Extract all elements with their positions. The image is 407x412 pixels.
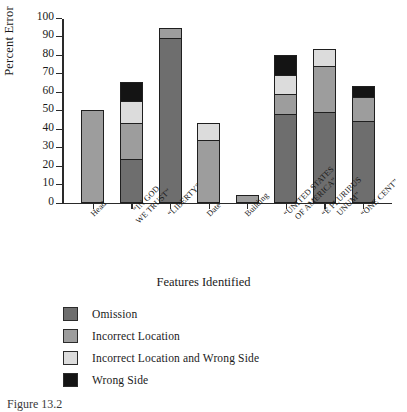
legend-swatch-icon	[63, 373, 78, 387]
legend-item: Incorrect Location	[63, 325, 363, 347]
y-axis-tick-label: 60	[30, 84, 54, 96]
chart-legend: OmissionIncorrect LocationIncorrect Loca…	[63, 303, 363, 391]
y-axis-tick-mark	[56, 55, 62, 56]
y-axis-tick-mark	[56, 92, 62, 93]
stacked-bar	[120, 82, 143, 202]
bar-segment	[120, 159, 143, 202]
y-axis-tick-mark	[56, 147, 62, 148]
y-axis-tick-mark	[56, 184, 62, 185]
bar-segment	[313, 49, 336, 66]
bar-segment	[274, 94, 297, 113]
y-axis-tick-label: 100	[30, 10, 54, 22]
y-axis-tick-mark	[56, 110, 62, 111]
bar-segment	[81, 110, 104, 203]
stacked-bar	[159, 28, 182, 203]
y-axis-tick-label: 20	[30, 158, 54, 170]
legend-label: Incorrect Location	[92, 330, 180, 342]
bar-segment	[274, 55, 297, 74]
bar-segment	[120, 101, 143, 123]
bar-segment	[352, 97, 375, 121]
chart-figure: Percent Error 0102030405060708090100 Hea…	[0, 0, 407, 300]
bar-segment	[274, 114, 297, 203]
y-axis-tick-label: 50	[30, 102, 54, 114]
legend-item: Wrong Side	[63, 369, 363, 391]
bar-segment	[197, 140, 220, 203]
plot-area: 0102030405060708090100	[62, 19, 392, 204]
y-axis-tick-mark	[56, 166, 62, 167]
legend-label: Wrong Side	[92, 374, 148, 386]
y-axis-line	[62, 19, 64, 204]
y-axis-tick-label: 90	[30, 28, 54, 40]
legend-item: Incorrect Location and Wrong Side	[63, 347, 363, 369]
stacked-bar	[274, 55, 297, 202]
bar-segment	[313, 66, 336, 112]
bar-segment	[197, 123, 220, 140]
stacked-bar	[81, 110, 104, 203]
y-axis-tick-mark	[56, 129, 62, 130]
legend-label: Incorrect Location and Wrong Side	[92, 352, 259, 364]
y-axis-tick-mark	[56, 203, 62, 204]
y-axis-tick-mark	[56, 73, 62, 74]
figure-caption: Figure 13.2	[7, 397, 62, 412]
bar-segment	[159, 28, 182, 38]
y-axis-tick-mark	[56, 18, 62, 19]
y-axis-tick-label: 10	[30, 176, 54, 188]
y-axis-tick-label: 70	[30, 65, 54, 77]
bar-segment	[274, 75, 297, 94]
y-axis-tick-label: 80	[30, 47, 54, 59]
legend-swatch-icon	[63, 351, 78, 365]
legend-label: Omission	[92, 308, 137, 320]
y-axis-tick-label: 40	[30, 121, 54, 133]
legend-swatch-icon	[63, 329, 78, 343]
legend-item: Omission	[63, 303, 363, 325]
x-axis-title: Features Identified	[0, 275, 407, 290]
bar-segment	[120, 123, 143, 159]
y-axis-title: Percent Error	[2, 0, 17, 96]
y-axis-tick-mark	[56, 36, 62, 37]
bar-segment	[352, 86, 375, 97]
y-axis-tick-label: 0	[30, 195, 54, 207]
bar-segment	[159, 38, 182, 203]
bar-segment	[120, 82, 143, 101]
y-axis-tick-label: 30	[30, 139, 54, 151]
legend-swatch-icon	[63, 307, 78, 321]
